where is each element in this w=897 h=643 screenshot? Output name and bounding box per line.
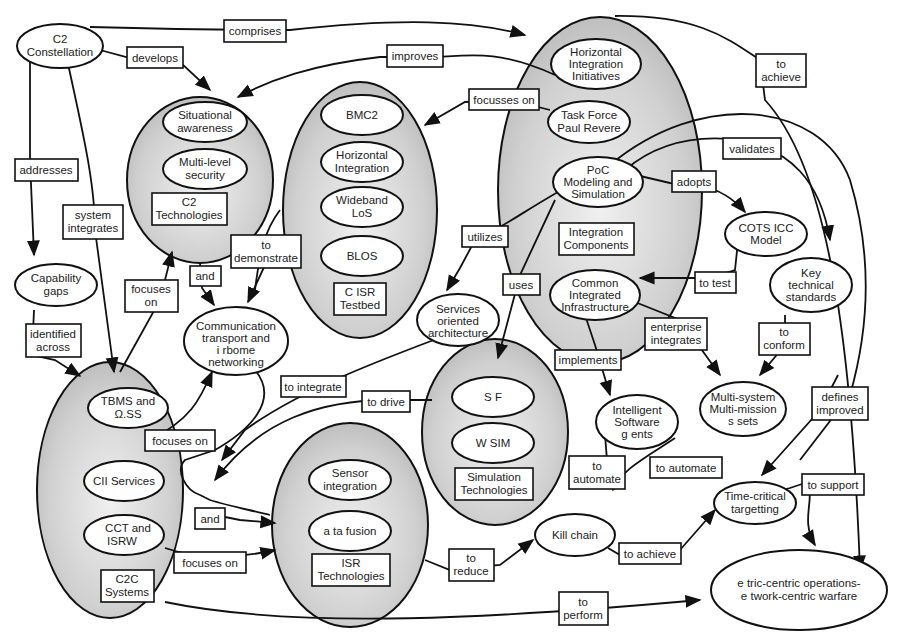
node-sf[interactable]: S F [452,377,534,417]
node-time-critical-targetting[interactable]: Time-critical targetting [714,482,796,524]
svg-text:s sets: s sets [728,415,758,427]
svg-text:to: to [592,460,602,472]
svg-text:Multi-mission: Multi-mission [709,403,776,415]
svg-text:COTS ICC: COTS ICC [739,222,794,234]
svg-text:C2C: C2C [115,573,138,585]
svg-text:LoS: LoS [352,207,373,219]
node-task-force-paul-revere[interactable]: Task Force Paul Revere [548,101,630,143]
edge-label-uses: uses [503,274,540,295]
node-bmc2[interactable]: BMC2 [321,95,403,135]
svg-text:and: and [195,270,214,282]
node-cii-services[interactable]: CII Services [84,461,164,501]
svg-text:Services: Services [436,303,480,315]
node-network-centric-operations[interactable]: e tric-centric operations- e twork-centr… [711,550,887,630]
edge-label-identified-across: identified across [26,324,81,357]
node-multi-system-mission-sets[interactable]: Multi-system Multi-mission s sets [700,382,786,436]
node-cct-and-isrw[interactable]: CCT and ISRW [84,515,164,555]
node-kill-chain[interactable]: Kill chain [535,514,615,556]
edge-label-to-automate-right: to automate [650,457,722,478]
svg-text:utilizes: utilizes [467,231,502,243]
svg-text:standards: standards [786,291,837,303]
svg-text:reduce: reduce [453,565,488,577]
svg-text:CCT and: CCT and [105,522,151,534]
node-key-technical-standards[interactable]: Key technical standards [770,258,852,312]
svg-text:Time-critical: Time-critical [724,490,786,502]
node-poc-modeling-simulation[interactable]: PoC Modeling and Simulation [553,157,643,207]
svg-text:integration: integration [323,480,377,492]
node-common-integrated-infrastructure[interactable]: Common Integrated Infrastructure [550,270,640,320]
svg-text:security: security [185,169,225,181]
svg-text:defines: defines [821,391,858,403]
svg-text:transport and: transport and [202,332,270,344]
node-wideband-los[interactable]: Wideband LoS [321,187,403,227]
edge-label-defines-improved: defines improved [812,387,868,420]
svg-text:Communication: Communication [196,320,276,332]
node-services-oriented-architecture[interactable]: Services oriented architecture [417,294,499,346]
svg-text:Ω.SS: Ω.SS [114,408,141,420]
svg-text:architecture: architecture [428,327,488,339]
cluster-title-c2c-systems: C2C Systems [101,570,154,602]
node-horizontal-integration[interactable]: Horizontal Integration [321,142,403,182]
svg-text:Sensor: Sensor [332,467,369,479]
svg-text:Horizontal: Horizontal [336,149,388,161]
svg-text:adopts: adopts [677,176,712,188]
svg-text:to: to [578,596,588,608]
svg-text:on: on [145,296,158,308]
node-cots-icc-model[interactable]: COTS ICC Model [725,212,807,256]
svg-text:and: and [200,513,219,525]
svg-text:Technologies: Technologies [155,209,222,221]
svg-text:ISR: ISR [341,557,360,569]
node-situational-awareness[interactable]: Situational awareness [163,102,247,142]
cluster-title-c2-technologies: C2 Technologies [152,193,227,225]
edge-label-focusses-on: focusses on [469,89,539,110]
node-c2-constellation[interactable]: C2 Constellation [17,24,103,68]
node-wsim[interactable]: W SIM [452,423,534,463]
svg-text:Simulation: Simulation [571,188,625,200]
svg-text:Systems: Systems [105,586,149,598]
svg-text:Technologies: Technologies [317,570,384,582]
svg-text:Testbed: Testbed [340,299,380,311]
svg-text:to drive: to drive [367,396,405,408]
node-blos[interactable]: BLOS [321,236,403,276]
node-intelligent-software-agents[interactable]: Intelligent Software g ents [596,395,678,449]
svg-text:focuses on: focuses on [152,435,208,447]
svg-text:S F: S F [484,391,502,403]
svg-text:to integrate: to integrate [284,381,342,393]
node-sensor-integration[interactable]: Sensor integration [309,460,391,500]
svg-text:ISRW: ISRW [107,535,137,547]
svg-text:Model: Model [750,234,781,246]
node-multi-level-security[interactable]: Multi-level security [163,149,247,189]
node-capability-gaps[interactable]: Capability gaps [15,264,97,306]
svg-text:Constellation: Constellation [27,46,93,58]
svg-text:a ta fusion: a ta fusion [323,525,376,537]
edge-label-focuses-on-top: focuses on [125,280,178,312]
edge-label-system-integrates: system integrates [63,205,123,239]
svg-text:Common: Common [572,277,619,289]
svg-text:technical: technical [788,279,833,291]
svg-text:Capability: Capability [31,272,82,284]
node-communication-transport[interactable]: Communication transport and i rbome netw… [184,307,288,375]
svg-text:develops: develops [132,52,178,64]
svg-text:improves: improves [392,50,439,62]
edge-label-to-support: to support [802,474,864,495]
edge-label-validates: validates [723,138,781,159]
edge-label-and-top: and [190,266,221,286]
edge-label-and-bottom: and [195,508,225,529]
node-horizontal-integration-initiatives[interactable]: Horizontal Integration Initiatives [551,39,641,89]
edge-label-to-reduce: to reduce [449,549,494,581]
node-data-fusion[interactable]: a ta fusion [309,511,391,551]
svg-text:to achieve: to achieve [624,548,676,560]
edge-label-to-achieve-top: to achieve [756,54,806,87]
edge-label-utilizes: utilizes [462,226,508,247]
svg-text:Components: Components [563,239,628,251]
svg-text:conform: conform [763,339,805,351]
svg-text:comprises: comprises [229,25,282,37]
svg-text:targetting: targetting [731,503,779,515]
svg-text:to: to [466,552,476,564]
svg-text:Multi-level: Multi-level [179,156,231,168]
svg-text:focuses on: focuses on [182,557,238,569]
svg-text:validates: validates [729,143,775,155]
node-tbms-and-oss[interactable]: TBMS and Ω.SS [88,388,168,428]
edge-label-develops: develops [127,47,183,68]
edge-label-to-test: to test [695,272,736,293]
